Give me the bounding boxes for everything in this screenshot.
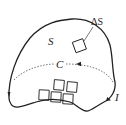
label-surface: S: [48, 35, 54, 47]
dashed-curve-c: [14, 64, 113, 82]
label-curve: C: [56, 58, 64, 70]
diagram-canvas: ΔS S C I: [0, 0, 126, 125]
area-element-leader: [84, 27, 93, 41]
label-current: I: [114, 91, 120, 103]
label-delta-s: ΔS: [91, 16, 103, 27]
boundary-arrow-left-icon: [8, 92, 11, 97]
curve-c-arrow-icon: [76, 62, 81, 66]
